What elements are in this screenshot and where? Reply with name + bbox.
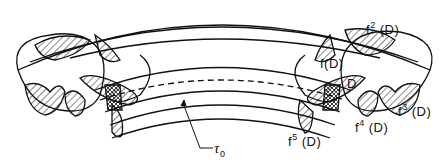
label-f5-D: f5 (D): [288, 132, 321, 149]
label-f3-D: f3 (D): [398, 102, 431, 119]
label-f4-D: f4 (D): [355, 118, 388, 135]
label-f-D: f(D): [320, 56, 344, 71]
label-D: D: [347, 76, 357, 91]
label-f2-D: f2 (D): [366, 20, 399, 37]
label-tau0: τ0: [214, 140, 225, 159]
